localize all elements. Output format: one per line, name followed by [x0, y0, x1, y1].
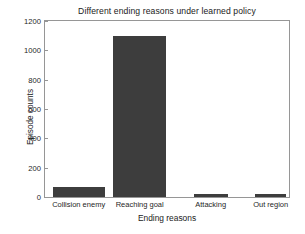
x-axis-label: Ending reasons: [44, 213, 290, 223]
y-tick-label: 0: [37, 193, 41, 202]
bar: [53, 187, 104, 197]
y-tick-mark: [45, 197, 48, 198]
bars-layer: [45, 21, 289, 197]
y-tick-label: 1000: [24, 46, 41, 55]
y-tick-label: 400: [28, 134, 41, 143]
x-tick-label: Reaching goal: [116, 200, 164, 209]
x-tick-label: Collision enemy: [52, 200, 105, 209]
x-tick-label: Attacking: [195, 200, 226, 209]
y-tick-label: 1200: [24, 17, 41, 26]
y-tick-label: 600: [28, 105, 41, 114]
x-tick-label: Out region: [253, 200, 288, 209]
plot-area: 020040060080010001200 Collision enemyRea…: [44, 20, 290, 198]
chart-title: Different ending reasons under learned p…: [44, 6, 290, 16]
bar: [113, 36, 165, 197]
y-tick-label: 800: [28, 75, 41, 84]
bar-chart-figure: Different ending reasons under learned p…: [0, 0, 305, 234]
bar: [255, 194, 286, 197]
y-tick-label: 200: [28, 163, 41, 172]
bar: [194, 194, 228, 197]
